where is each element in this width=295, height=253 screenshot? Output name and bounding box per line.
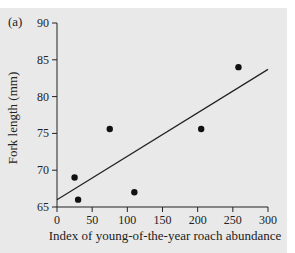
x-tick-label: 300 [259,213,277,227]
x-axis: 050100150200250300 [54,207,277,227]
y-tick-label: 80 [37,90,49,104]
y-tick-label: 85 [37,53,49,67]
y-tick-label: 65 [37,200,49,214]
data-point [107,126,113,132]
x-axis-label: Index of young-of-the-year roach abundan… [49,228,282,243]
x-tick-label: 200 [189,213,207,227]
data-point [198,126,204,132]
data-point [71,174,77,180]
x-tick-label: 50 [86,213,98,227]
data-point [131,189,137,195]
regression-line [57,69,268,199]
x-tick-label: 150 [154,213,172,227]
x-tick-label: 100 [118,213,136,227]
x-tick-label: 0 [54,213,60,227]
data-point [235,64,241,70]
fit-line [57,69,268,199]
data-point [75,196,81,202]
panel-label: (a) [8,14,22,29]
x-tick-label: 250 [224,213,242,227]
scatter-chart: (a) 657075808590 050100150200250300 Inde… [0,0,295,253]
y-tick-label: 70 [37,163,49,177]
y-axis: 657075808590 [37,16,57,214]
data-points [71,64,241,203]
y-tick-label: 75 [37,126,49,140]
y-axis-label: Fork length (mm) [5,72,20,164]
y-tick-label: 90 [37,16,49,30]
